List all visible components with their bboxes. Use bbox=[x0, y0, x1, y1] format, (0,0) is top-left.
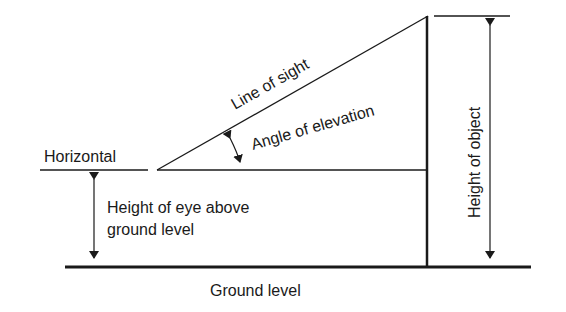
angle-of-elevation-diagram: Horizontal Line of sight Angle of elevat… bbox=[0, 0, 566, 312]
line-of-sight bbox=[157, 16, 428, 170]
line-of-sight-label: Line of sight bbox=[228, 55, 312, 113]
angle-of-elevation-label: Angle of elevation bbox=[249, 101, 376, 152]
angle-arc-arrow bbox=[230, 138, 240, 162]
ground-level-label: Ground level bbox=[210, 282, 301, 299]
height-of-object-label: Height of object bbox=[466, 106, 483, 218]
eye-height-label-line1: Height of eye above bbox=[107, 199, 249, 216]
eye-height-label-line2: ground level bbox=[107, 221, 194, 238]
horizontal-label: Horizontal bbox=[44, 148, 116, 165]
